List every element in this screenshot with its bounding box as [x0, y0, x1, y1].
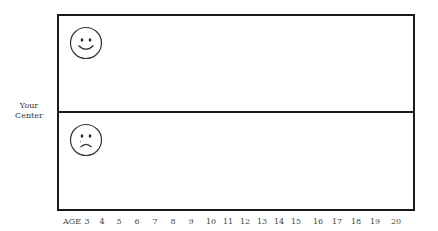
- age-tick: 12: [240, 217, 250, 226]
- sad-panel: [57, 111, 415, 211]
- age-tick: 18: [351, 217, 361, 226]
- age-tick: 17: [332, 217, 342, 226]
- age-tick: 13: [257, 217, 267, 226]
- happy-face-icon: [69, 26, 103, 60]
- age-tick: 4: [99, 217, 104, 226]
- age-tick: 11: [223, 217, 233, 226]
- age-tick: 20: [391, 217, 401, 226]
- sad-face-icon: [69, 123, 103, 157]
- age-tick: 9: [188, 217, 193, 226]
- axis-title: AGE: [63, 217, 81, 226]
- age-tick: 6: [134, 217, 139, 226]
- age-tick: 5: [116, 217, 121, 226]
- age-tick: 8: [170, 217, 175, 226]
- happy-panel: [57, 14, 415, 113]
- age-tick: 15: [291, 217, 301, 226]
- age-tick: 3: [84, 217, 89, 226]
- side-label-line1: Your: [6, 101, 52, 111]
- age-tick: 10: [206, 217, 216, 226]
- age-tick: 7: [152, 217, 157, 226]
- your-center-label: Your Center: [6, 101, 52, 121]
- age-tick: 19: [370, 217, 380, 226]
- side-label-line2: Center: [6, 111, 52, 121]
- age-tick: 14: [274, 217, 284, 226]
- age-tick: 16: [313, 217, 323, 226]
